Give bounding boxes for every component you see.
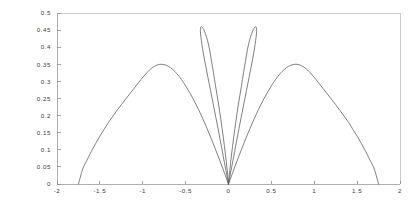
x-tick-label: 2 bbox=[398, 187, 402, 194]
y-tick-label: 0.05 bbox=[37, 163, 51, 170]
x-tick-label: -1.5 bbox=[93, 187, 106, 194]
y-tick-label: 0.15 bbox=[37, 129, 51, 136]
curve-inner-lobe-left bbox=[200, 27, 228, 184]
y-tick-label: 0.5 bbox=[41, 9, 51, 16]
x-tick-label: 1.5 bbox=[352, 187, 362, 194]
y-tick-label: 0.1 bbox=[41, 146, 51, 153]
plot-frame bbox=[57, 13, 400, 184]
x-tick-label: -1 bbox=[139, 187, 146, 194]
y-tick-label: 0.45 bbox=[37, 26, 51, 33]
plot-canvas: 00.050.10.150.20.250.30.350.40.450.5 -2-… bbox=[0, 0, 420, 211]
curve-outer-lobe-left bbox=[78, 64, 228, 184]
x-tick-label: 0 bbox=[227, 187, 231, 194]
y-tick-label: 0.3 bbox=[41, 78, 51, 85]
x-tick-label: -2 bbox=[54, 187, 61, 194]
y-tick-label: 0.4 bbox=[41, 43, 51, 50]
curve-outer-lobe-right bbox=[229, 64, 379, 184]
y-axis-ticks bbox=[57, 13, 61, 184]
data-curves bbox=[78, 27, 378, 184]
y-tick-label: 0 bbox=[47, 180, 51, 187]
y-tick-label: 0.35 bbox=[37, 61, 51, 68]
x-tick-label: -0.5 bbox=[179, 187, 192, 194]
chart-container: 00.050.10.150.20.250.30.350.40.450.5 -2-… bbox=[0, 0, 420, 211]
x-tick-label: 1 bbox=[312, 187, 316, 194]
y-tick-label: 0.2 bbox=[41, 112, 51, 119]
curve-inner-lobe-right bbox=[229, 27, 257, 184]
y-tick-label: 0.25 bbox=[37, 95, 51, 102]
x-axis-tick-labels: -2-1.5-1-0.500.511.52 bbox=[54, 187, 402, 194]
y-axis-tick-labels: 00.050.10.150.20.250.30.350.40.450.5 bbox=[37, 9, 51, 187]
x-tick-label: 0.5 bbox=[266, 187, 276, 194]
